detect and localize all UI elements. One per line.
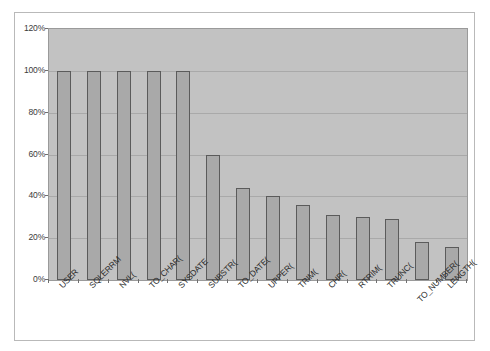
bar bbox=[236, 188, 250, 280]
gridline bbox=[49, 113, 467, 114]
bar bbox=[415, 242, 429, 280]
bar bbox=[266, 196, 280, 280]
bar bbox=[87, 71, 101, 280]
gridline bbox=[49, 155, 467, 156]
bar bbox=[57, 71, 71, 280]
bar bbox=[147, 71, 161, 280]
gridline bbox=[49, 196, 467, 197]
bar bbox=[296, 205, 310, 280]
gridline bbox=[49, 238, 467, 239]
x-axis-labels: USERSQLERRMNVL(TO_CHAR(SYSDATESUBSTR(TO_… bbox=[48, 283, 478, 341]
chart-frame: 120%100%80%60%40%20%0% USERSQLERRMNVL(TO… bbox=[14, 12, 475, 341]
plot-area bbox=[48, 28, 468, 281]
bar bbox=[176, 71, 190, 280]
bar bbox=[117, 71, 131, 280]
gridline bbox=[49, 71, 467, 72]
